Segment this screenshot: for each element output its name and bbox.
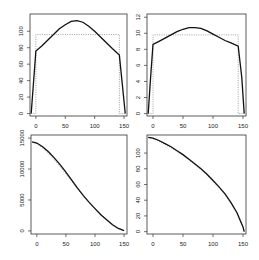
- y-tick-label: 0: [135, 229, 141, 233]
- x-tick-label: 50: [180, 123, 187, 129]
- y-tick-label: 60: [135, 181, 141, 188]
- solid-series-line: [148, 28, 244, 114]
- y-tick-label: 10000: [19, 160, 25, 177]
- y-tick-label: 0: [135, 111, 141, 115]
- x-tick-label: 100: [208, 241, 219, 247]
- y-tick-label: 8: [135, 47, 141, 51]
- four-panel-line-plot: 0501001500204060801000501001500246810120…: [0, 0, 259, 260]
- y-tick-label: 15000: [19, 129, 25, 146]
- panel-top-right: 050100150024681012: [135, 13, 249, 129]
- y-tick-label: 5000: [19, 193, 25, 207]
- y-tick-label: 12: [135, 13, 141, 20]
- x-tick-label: 100: [208, 123, 219, 129]
- y-tick-label: 60: [18, 60, 24, 67]
- x-tick-label: 0: [35, 241, 39, 247]
- plot-frame: [147, 135, 246, 234]
- y-tick-label: 80: [18, 44, 24, 51]
- x-tick-label: 150: [119, 123, 130, 129]
- x-tick-label: 0: [151, 241, 155, 247]
- panel-bottom-right: 050100150020406080100: [135, 135, 249, 247]
- dotted-series-line: [32, 142, 124, 231]
- y-tick-label: 100: [135, 147, 141, 158]
- y-tick-label: 20: [18, 93, 24, 100]
- y-tick-label: 40: [135, 196, 141, 203]
- y-tick-label: 0: [18, 111, 24, 115]
- x-tick-label: 100: [90, 241, 101, 247]
- y-tick-label: 20: [135, 212, 141, 219]
- y-tick-label: 2: [135, 95, 141, 99]
- x-tick-label: 150: [119, 241, 130, 247]
- solid-series-line: [148, 137, 244, 231]
- x-tick-label: 50: [63, 241, 70, 247]
- chart-grid: 0501001500204060801000501001500246810120…: [0, 0, 259, 260]
- y-tick-label: 40: [18, 77, 24, 84]
- dotted-series-line: [148, 35, 244, 114]
- x-tick-label: 50: [180, 241, 187, 247]
- dotted-series-line: [31, 35, 125, 114]
- y-tick-label: 10: [135, 29, 141, 36]
- y-tick-label: 6: [135, 63, 141, 67]
- y-tick-label: 100: [18, 26, 24, 37]
- panel-top-left: 050100150020406080100: [18, 14, 130, 129]
- y-tick-label: 4: [135, 79, 141, 83]
- x-tick-label: 100: [90, 123, 101, 129]
- plot-frame: [30, 14, 127, 116]
- y-tick-label: 0: [19, 229, 25, 233]
- panel-bottom-left: 050100150050001000015000: [19, 129, 130, 247]
- plot-frame: [147, 14, 246, 116]
- x-tick-label: 150: [238, 123, 249, 129]
- x-tick-label: 0: [34, 123, 38, 129]
- x-tick-label: 0: [151, 123, 155, 129]
- dotted-series-line: [148, 137, 244, 231]
- y-tick-label: 80: [135, 165, 141, 172]
- x-tick-label: 50: [62, 123, 69, 129]
- solid-series-line: [32, 142, 124, 231]
- x-tick-label: 150: [238, 241, 249, 247]
